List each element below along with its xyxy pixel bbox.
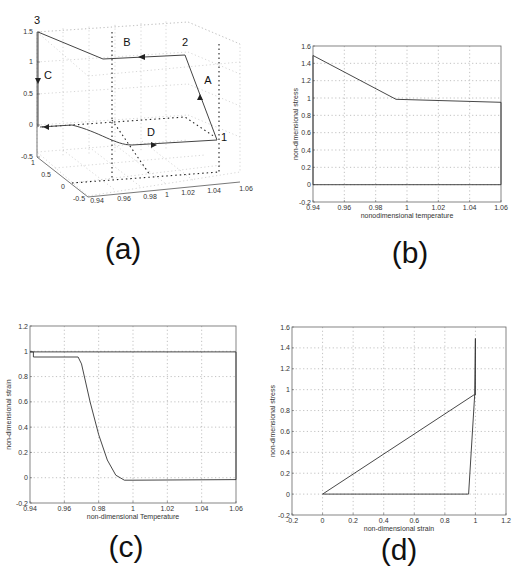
y-tick-label: 0.6 (18, 398, 28, 405)
x-tick-label: 0 (321, 517, 325, 524)
y-axis-label: non-dimensional stress (269, 385, 276, 457)
axes-box (292, 327, 506, 515)
data-line (323, 339, 476, 495)
arrow-right-icon (151, 142, 157, 148)
arrow-left-icon (43, 124, 49, 130)
x-tick-label: 1.02 (161, 505, 175, 512)
panel-c: 0.940.960.9811.021.041.06-0.200.20.40.60… (0, 310, 260, 530)
panel-b: 0.940.960.9811.021.041.06-0.200.20.40.60… (270, 30, 528, 230)
y-tick-label: 1.2 (280, 365, 290, 372)
grid (313, 46, 501, 202)
y-tick-label: 0 (24, 474, 28, 481)
panel-d: -0.200.20.40.60.811.2-0.200.20.40.60.811… (270, 310, 528, 530)
caption-c: (c) (109, 530, 144, 564)
z-tick-label: 1.5 (23, 28, 33, 35)
y-tick-label: 0.4 (280, 449, 290, 456)
point-label: 3 (34, 14, 40, 26)
x-tick-label: 1 (405, 204, 409, 211)
y-tick-label: 1.2 (18, 323, 28, 330)
arrow-up-icon (197, 94, 203, 100)
point-label: 1 (221, 131, 227, 143)
chart-3d: -0.500.511.5-0.500.510.940.960.9811.021.… (0, 0, 260, 230)
y-tick-label: 1 (24, 348, 28, 355)
y-tick-label: 1 (286, 386, 290, 393)
x-tick-label: 1.04 (195, 505, 209, 512)
arrow-icons (35, 54, 203, 148)
x-tick-label: 0.94 (90, 197, 104, 204)
x-tick-label: 1.06 (239, 185, 253, 192)
x-tick-label: 0.8 (440, 517, 450, 524)
y-tick-label: 0.4 (301, 147, 311, 154)
y-tick-label: -0.2 (299, 199, 311, 206)
y-tick-label: 1.4 (280, 344, 290, 351)
y-tick-label: 0 (307, 181, 311, 188)
y-tick-label: 0.6 (280, 428, 290, 435)
x-tick-label: 1 (131, 505, 135, 512)
caption-b: (b) (392, 236, 429, 270)
y-tick-label: 0.5 (41, 171, 51, 178)
grid (292, 327, 506, 515)
chart-stress-temperature: 0.940.960.9811.021.041.06-0.200.20.40.60… (270, 30, 528, 230)
chart-stress-strain: -0.200.20.40.60.811.2-0.200.20.40.60.811… (270, 310, 528, 530)
x-tick-label: 0.98 (369, 204, 383, 211)
y-tick-label: 0.2 (280, 470, 290, 477)
x-axis-label: non-dimensional strain (364, 525, 435, 532)
z-tick-label: 0 (29, 121, 33, 128)
x-tick-label: 1 (473, 517, 477, 524)
x-tick-label: 1.06 (229, 505, 243, 512)
y-tick-label: 0.8 (18, 373, 28, 380)
y-tick-label: 0.8 (280, 407, 290, 414)
x-tick-label: 1.06 (494, 204, 508, 211)
projection-lines (42, 32, 219, 183)
y-axis-label: non-dimensional strain (5, 379, 12, 450)
y-tick-label: 1.4 (301, 60, 311, 67)
x-tick-label: 0.6 (409, 517, 419, 524)
segment-label: C (44, 69, 52, 81)
x-tick-label: 0.96 (117, 195, 131, 202)
grid (37, 21, 240, 196)
y-tick-label: -0.2 (278, 512, 290, 519)
x-tick-label: 1.04 (207, 187, 221, 194)
y-axis-label: non-dimensional stress (292, 88, 299, 160)
x-tick-label: 0.98 (92, 505, 106, 512)
x-tick-label: 1.04 (463, 204, 477, 211)
y-tick-label: 1 (307, 95, 311, 102)
x-tick-label: 0.2 (348, 517, 358, 524)
y-tick-label: 0.8 (301, 112, 311, 119)
caption-d: (d) (381, 533, 418, 567)
y-tick-label: 1 (31, 159, 35, 166)
grid (30, 326, 236, 503)
arrow-down-icon (35, 78, 41, 84)
y-tick-label: -0.2 (16, 500, 28, 507)
x-tick-label: 1.2 (501, 517, 511, 524)
segment-label: B (123, 36, 130, 48)
y-tick-label: 0.6 (301, 129, 311, 136)
x-tick-label: 0.96 (58, 505, 72, 512)
x-tick-label: 0.98 (143, 193, 157, 200)
x-tick-label: 0.4 (379, 517, 389, 524)
y-tick-label: -0.5 (73, 195, 85, 202)
x-tick-label: 1 (165, 191, 169, 198)
y-tick-label: 1.6 (280, 324, 290, 331)
x-axis-label: nonodimensional temperature (361, 212, 454, 220)
point-label: 2 (182, 36, 188, 48)
y-tick-label: 0.4 (18, 424, 28, 431)
y-tick-label: 0.2 (301, 164, 311, 171)
y-tick-label: 1.2 (301, 77, 311, 84)
panel-a: -0.500.511.5-0.500.510.940.960.9811.021.… (0, 0, 260, 230)
axes (37, 32, 240, 197)
segment-label: D (147, 126, 155, 138)
chart-strain-temperature: 0.940.960.9811.021.041.06-0.200.20.40.60… (0, 310, 260, 530)
x-axis-label: non-dimensional Temperature (87, 513, 180, 521)
y-tick-label: 0 (286, 491, 290, 498)
z-tick-label: 1 (29, 58, 33, 65)
x-tick-label: 1.02 (432, 204, 446, 211)
x-tick-label: 1.02 (181, 189, 195, 196)
x-tick-label: 0.96 (338, 204, 352, 211)
y-tick-label: 0.2 (18, 449, 28, 456)
y-tick-label: 0 (61, 183, 65, 190)
z-tick-label: 0.5 (23, 90, 33, 97)
y-tick-label: 1.6 (301, 43, 311, 50)
caption-a: (a) (105, 232, 142, 266)
cycle-path (38, 32, 217, 145)
